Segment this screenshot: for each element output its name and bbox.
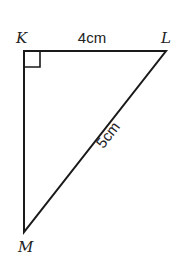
triangle-diagram: K L M 4cm 5cm xyxy=(0,0,182,270)
side-label-lm: 5cm xyxy=(92,118,123,151)
side-label-kl: 4cm xyxy=(78,29,106,46)
right-angle-marker xyxy=(24,51,40,67)
vertex-label-k: K xyxy=(15,29,28,47)
vertex-label-m: M xyxy=(17,238,34,256)
vertex-label-l: L xyxy=(160,29,171,47)
